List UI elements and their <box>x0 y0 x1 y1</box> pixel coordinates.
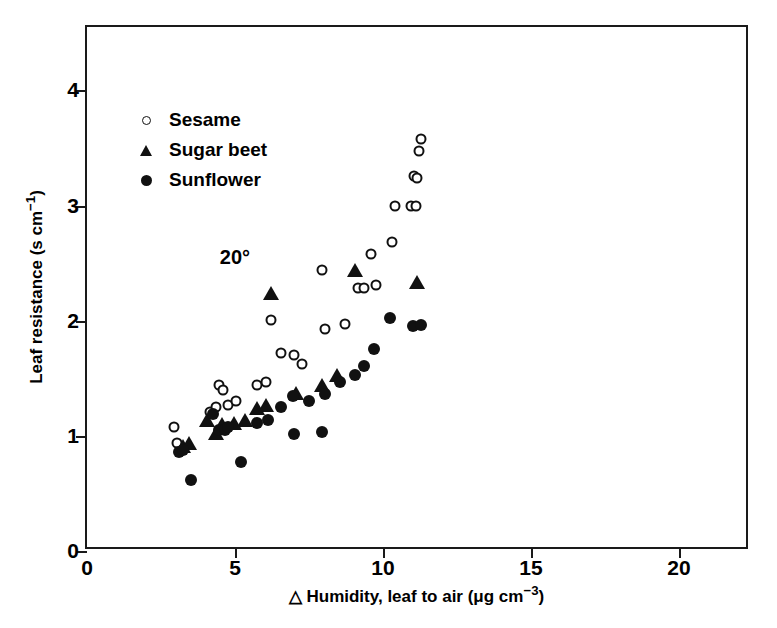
data-point-sunflower <box>288 428 300 440</box>
data-point-sesame <box>366 248 377 259</box>
data-point-sunflower <box>358 360 370 372</box>
legend-item-sunflower: Sunflower <box>133 165 267 195</box>
data-point-sesame <box>261 376 272 387</box>
data-point-sesame <box>265 314 276 325</box>
scatter-plot-figure: Leaf resistance (s cm−1) △ Humidity, lea… <box>0 0 777 628</box>
data-point-sunflower <box>349 369 361 381</box>
legend-label-sugar-beet: Sugar beet <box>169 139 267 161</box>
y-tick-label-3: 3 <box>67 194 79 218</box>
x-tick-label-5: 5 <box>229 556 241 580</box>
data-point-sunflower <box>287 390 299 402</box>
x-axis-title-suffix: ) <box>539 587 545 606</box>
data-point-sesame <box>296 359 307 370</box>
y-tick-label-1: 1 <box>67 424 79 448</box>
x-axis-title-prefix: △ Humidity, leaf to air (μg cm <box>289 587 524 606</box>
data-point-sunflower <box>384 312 396 324</box>
data-point-sunflower <box>319 388 331 400</box>
x-tick-label-15: 15 <box>519 556 542 580</box>
data-point-sugar-beet <box>409 275 425 289</box>
x-axis-title-exponent: −3 <box>523 583 538 598</box>
y-tick-label-0: 0 <box>67 539 79 563</box>
legend-item-sesame: Sesame <box>133 105 267 135</box>
legend: Sesame Sugar beet Sunflower <box>133 105 267 195</box>
y-tick-label-4: 4 <box>67 78 79 102</box>
data-point-sunflower <box>222 421 234 433</box>
data-point-sugar-beet <box>263 286 279 300</box>
data-point-sunflower <box>275 401 287 413</box>
y-axis-title-exponent: −1 <box>23 196 38 211</box>
data-point-sunflower <box>235 456 247 468</box>
data-point-sesame <box>231 396 242 407</box>
legend-label-sunflower: Sunflower <box>169 169 261 191</box>
data-point-sunflower <box>303 395 315 407</box>
data-point-sunflower <box>177 444 189 456</box>
data-point-sunflower <box>262 414 274 426</box>
data-point-sesame <box>339 319 350 330</box>
data-point-sesame <box>275 347 286 358</box>
data-point-sesame <box>358 283 369 294</box>
y-tick-label-2: 2 <box>67 309 79 333</box>
data-point-sesame <box>389 200 400 211</box>
data-point-sesame <box>413 146 424 157</box>
plot-annotation-temperature: 20° <box>220 246 250 269</box>
filled-triangle-icon <box>133 145 159 156</box>
data-point-sugar-beet <box>258 398 274 412</box>
data-point-sunflower <box>334 376 346 388</box>
data-point-sesame <box>317 264 328 275</box>
legend-item-sugar-beet: Sugar beet <box>133 135 267 165</box>
plot-area: 01234 05101520 20° Sesame Sugar beet Sun… <box>85 25 748 549</box>
data-point-sunflower <box>185 474 197 486</box>
data-point-sesame <box>412 172 423 183</box>
data-point-sugar-beet <box>347 263 363 277</box>
data-point-sunflower <box>316 426 328 438</box>
data-point-sesame <box>169 421 180 432</box>
data-point-sunflower <box>207 408 219 420</box>
data-point-sunflower <box>415 319 427 331</box>
x-tick-label-10: 10 <box>371 556 394 580</box>
x-tick-label-0: 0 <box>81 556 93 580</box>
data-point-sunflower <box>368 343 380 355</box>
data-point-sesame <box>320 323 331 334</box>
data-point-sesame <box>370 279 381 290</box>
data-point-sesame <box>416 133 427 144</box>
data-point-sesame <box>218 384 229 395</box>
x-axis-title: △ Humidity, leaf to air (μg cm−3) <box>85 583 748 607</box>
data-point-sesame <box>410 200 421 211</box>
y-axis-title-suffix: ) <box>27 190 46 196</box>
filled-circle-icon <box>133 175 159 186</box>
y-axis-title: Leaf resistance (s cm−1) <box>14 25 48 549</box>
y-axis-title-prefix: Leaf resistance (s cm <box>27 211 46 384</box>
legend-label-sesame: Sesame <box>169 109 241 131</box>
data-point-sesame <box>386 237 397 248</box>
x-tick-label-20: 20 <box>667 556 690 580</box>
open-circle-icon <box>133 116 159 125</box>
